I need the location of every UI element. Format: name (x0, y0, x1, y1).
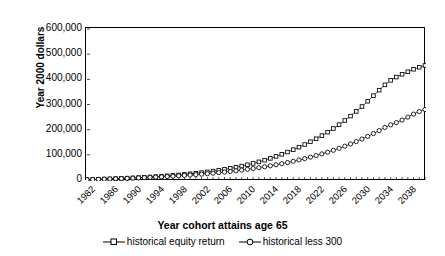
data-point (366, 99, 370, 103)
x-axis-title: Year cohort attains age 65 (0, 219, 445, 231)
legend-circle-marker-icon (239, 237, 261, 247)
data-point (383, 125, 387, 129)
data-point (251, 162, 255, 166)
data-point (309, 140, 313, 144)
legend-label: historical equity return (127, 236, 225, 247)
data-point (400, 73, 404, 77)
data-point (366, 134, 370, 138)
x-tick-label: 1994 (139, 184, 166, 211)
data-point (331, 148, 335, 152)
x-tick-label: 2038 (391, 184, 418, 211)
data-point (274, 155, 278, 159)
data-point (246, 163, 250, 167)
data-point (280, 162, 284, 166)
data-point (395, 75, 399, 79)
data-point (286, 150, 290, 154)
x-tick-label: 2022 (299, 184, 326, 211)
data-point (348, 142, 352, 146)
data-point (291, 159, 295, 163)
data-point (177, 174, 181, 178)
data-point (240, 164, 244, 168)
data-point (343, 144, 347, 148)
data-point (274, 163, 278, 167)
data-point (234, 169, 238, 173)
x-tick-label: 2026 (322, 184, 349, 211)
data-point (245, 167, 249, 171)
data-point (222, 170, 226, 174)
data-point (136, 176, 140, 180)
data-point (257, 160, 261, 164)
data-point (412, 67, 416, 71)
data-point (194, 173, 198, 177)
data-point (131, 176, 135, 180)
data-point (171, 174, 175, 178)
plot-area (85, 27, 425, 180)
chart-container: Year 2000 dollars 600,000500,000400,0003… (0, 0, 445, 256)
data-point (354, 139, 358, 143)
x-tick-label: 2006 (208, 184, 235, 211)
data-point (268, 164, 272, 168)
y-tick-label: 400,000 (28, 73, 82, 83)
data-point (343, 119, 347, 123)
y-tick-label: 500,000 (28, 48, 82, 58)
legend-square-marker-icon (103, 237, 125, 247)
data-point (406, 70, 410, 74)
data-point (297, 158, 301, 162)
chart-legend: historical equity returnhistorical less … (0, 236, 445, 247)
data-point (332, 127, 336, 131)
data-point (148, 175, 152, 179)
x-axis-tick-labels: 1982198619901994199820022006201020142018… (85, 181, 425, 221)
x-tick-label: 2018 (276, 184, 303, 211)
data-point (354, 110, 358, 114)
data-point (303, 143, 307, 147)
data-point (125, 176, 129, 180)
data-point (188, 173, 192, 177)
data-point (217, 171, 221, 175)
data-point (199, 172, 203, 176)
data-point (182, 173, 186, 177)
data-point (154, 175, 158, 179)
data-point (159, 175, 163, 179)
data-point (291, 148, 295, 152)
data-point (297, 145, 301, 149)
y-tick-label: 300,000 (28, 99, 82, 109)
data-point (417, 65, 421, 69)
data-point (383, 83, 387, 87)
data-point (262, 165, 266, 169)
data-point (389, 123, 393, 127)
x-tick-label: 1998 (162, 184, 189, 211)
data-point (337, 146, 341, 150)
data-point (308, 155, 312, 159)
y-tick-label: 100,000 (28, 149, 82, 159)
data-point (142, 176, 146, 180)
data-point (360, 105, 364, 109)
data-point (349, 114, 353, 118)
data-point (257, 166, 261, 170)
data-point (211, 171, 215, 175)
data-point (320, 134, 324, 138)
data-point (394, 121, 398, 125)
y-axis-ticks (87, 29, 90, 180)
data-point (377, 88, 381, 92)
x-tick-label: 2034 (368, 184, 395, 211)
data-point (314, 153, 318, 157)
legend-entry: historical less 300 (239, 236, 342, 247)
data-point (228, 169, 232, 173)
legend-label: historical less 300 (263, 236, 342, 247)
x-tick-label: 1990 (116, 184, 143, 211)
data-point (240, 168, 244, 172)
data-point (423, 64, 426, 68)
data-point (372, 94, 376, 98)
legend-entry: historical equity return (103, 236, 225, 247)
y-tick-label: 0 (28, 174, 82, 184)
data-point (411, 112, 415, 116)
data-point (165, 174, 169, 178)
data-point (303, 157, 307, 161)
data-point (377, 129, 381, 133)
data-point (400, 118, 404, 122)
series-equity-return (86, 64, 426, 181)
data-point (337, 123, 341, 127)
data-point (280, 153, 284, 157)
data-point (251, 166, 255, 170)
data-point (285, 160, 289, 164)
